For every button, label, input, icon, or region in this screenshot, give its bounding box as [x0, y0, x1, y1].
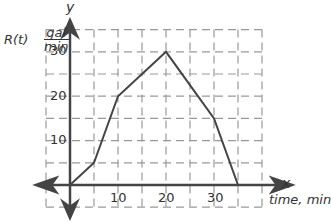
x-tick-20: 20 — [158, 191, 175, 204]
grid — [46, 30, 262, 208]
x-axis-label: x — [282, 176, 290, 190]
y-axis-label: y — [66, 0, 74, 14]
x-axis-title: time, min — [269, 193, 331, 206]
y-tick-20: 20 — [50, 89, 67, 102]
y-tick-10: 10 — [50, 133, 67, 146]
x-tick-10: 10 — [110, 191, 127, 204]
rate-label: R(t) — [4, 33, 28, 46]
x-tick-30: 30 — [207, 191, 224, 204]
y-tick-30: 30 — [50, 44, 67, 57]
unit-numerator: gal — [44, 26, 69, 40]
